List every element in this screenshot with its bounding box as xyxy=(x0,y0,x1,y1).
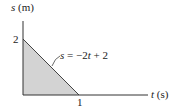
equation-annotation: s = −2t + 2 xyxy=(60,49,108,61)
x-tick-label: 1 xyxy=(77,96,83,108)
x-axis-label: t (s) xyxy=(151,88,169,101)
y-axis-label: s (m) xyxy=(11,1,34,14)
y-tick-label: 2 xyxy=(13,33,19,45)
chart: s (m) 2 1 t (s) s = −2t + 2 xyxy=(0,0,179,112)
annotation-leader xyxy=(52,56,60,66)
